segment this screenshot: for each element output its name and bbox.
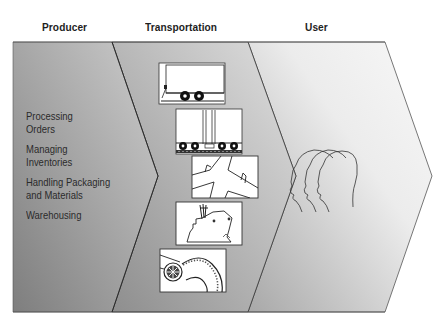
activity-warehousing: Warehousing [26,209,112,222]
activity-handling-packaging: Handling Packaging and Materials [26,176,112,201]
truck-trailer-icon [159,63,225,104]
pipeline-icon [160,249,226,292]
airplane-icon [192,156,258,198]
activity-managing-inventories: Managing Inventories [26,143,112,168]
ship-icon [176,202,242,245]
rail-car-icon [176,109,242,154]
producer-activities-list: Processing Orders Managing Inventories H… [26,110,126,230]
activity-processing-orders: Processing Orders [26,110,112,135]
